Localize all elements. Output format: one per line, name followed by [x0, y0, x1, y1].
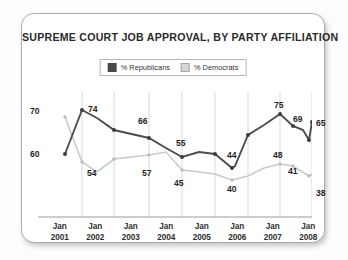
- data-label-rep-75: 75: [274, 100, 284, 110]
- data-label-dem-38: 38: [316, 188, 326, 198]
- x-tick-month: Jan: [149, 222, 185, 233]
- legend-swatch-democrats-icon: [181, 63, 190, 72]
- data-label-dem-48: 48: [273, 150, 283, 160]
- line-chart-svg: [35, 92, 312, 218]
- x-tick-2006: Jan 2006: [220, 222, 256, 243]
- x-tick-month: Jan: [113, 222, 149, 233]
- x-tick-month: Jan: [184, 222, 220, 233]
- data-label-dem-40: 40: [227, 184, 237, 194]
- x-tick-2007: Jan 2007: [255, 222, 291, 243]
- legend-item-republicans[interactable]: % Republicans: [108, 63, 170, 72]
- x-tick-year: 2001: [42, 233, 78, 244]
- legend-label-democrats: % Democrats: [194, 63, 238, 72]
- series-republicans: [63, 108, 312, 170]
- page-title: SUPREME COURT JOB APPROVAL, BY PARTY AFF…: [22, 31, 324, 43]
- data-points-democrats: [63, 115, 310, 181]
- chart-card: SUPREME COURT JOB APPROVAL, BY PARTY AFF…: [21, 13, 325, 243]
- data-label-dem-70: 70: [30, 106, 40, 116]
- data-label-rep-65: 65: [316, 118, 326, 128]
- data-label-dem-45: 45: [174, 178, 184, 188]
- legend-item-democrats[interactable]: % Democrats: [181, 63, 238, 72]
- plot-area: 70 60 74 54 66 57 55 45 44 40 75 48 69 4…: [35, 92, 312, 218]
- x-axis-labels: Jan 2001 Jan 2002 Jan 2003 Jan 2004 Jan …: [42, 222, 326, 243]
- data-label-rep-74: 74: [88, 104, 98, 114]
- x-tick-2001: Jan 2001: [42, 222, 78, 243]
- x-tick-2004: Jan 2004: [149, 222, 185, 243]
- data-label-rep-60: 60: [30, 149, 40, 159]
- data-label-dem-41: 41: [288, 166, 298, 176]
- data-label-rep-69: 69: [293, 114, 303, 124]
- x-tick-2005: Jan 2005: [184, 222, 220, 243]
- x-tick-year: 2004: [149, 233, 185, 244]
- x-tick-year: 2003: [113, 233, 149, 244]
- data-label-rep-55: 55: [176, 138, 186, 148]
- chart-screenshot: SUPREME COURT JOB APPROVAL, BY PARTY AFF…: [0, 0, 348, 260]
- series-democrats: [63, 115, 312, 182]
- chart-legend: % Republicans % Democrats: [100, 59, 247, 76]
- x-tick-month: Jan: [255, 222, 291, 233]
- x-tick-2002: Jan 2002: [78, 222, 114, 243]
- x-tick-year: 2006: [220, 233, 256, 244]
- x-tick-year: 2005: [184, 233, 220, 244]
- legend-label-republicans: % Republicans: [121, 63, 170, 72]
- x-tick-month: Jan: [291, 222, 327, 233]
- data-label-rep-44: 44: [227, 150, 237, 160]
- data-label-dem-57: 57: [142, 168, 152, 178]
- legend-swatch-republicans-icon: [108, 63, 117, 72]
- data-label-dem-54: 54: [87, 168, 97, 178]
- x-tick-2008: Jan 2008: [291, 222, 327, 243]
- data-label-rep-66: 66: [138, 116, 148, 126]
- x-tick-month: Jan: [220, 222, 256, 233]
- x-tick-month: Jan: [42, 222, 78, 233]
- x-tick-month: Jan: [78, 222, 114, 233]
- x-tick-year: 2008: [291, 233, 327, 244]
- x-tick-year: 2002: [78, 233, 114, 244]
- x-tick-year: 2007: [255, 233, 291, 244]
- x-tick-2003: Jan 2003: [113, 222, 149, 243]
